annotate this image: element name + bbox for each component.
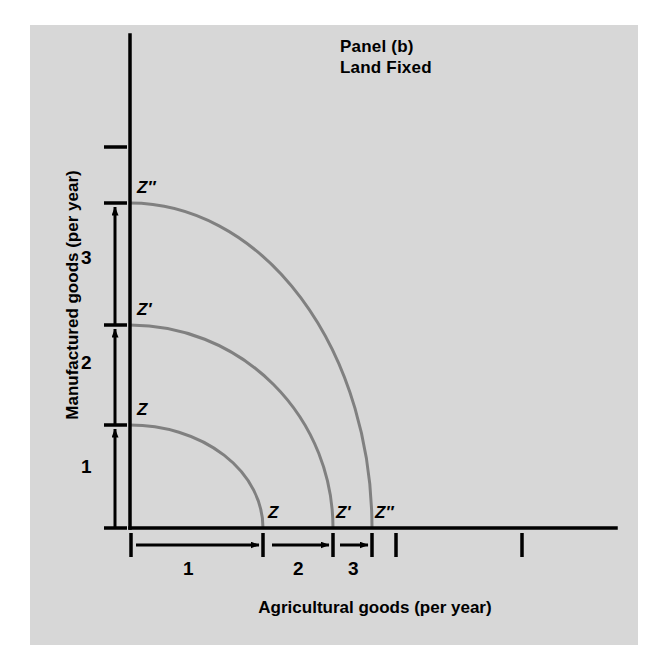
curve-z xyxy=(130,425,263,528)
curve-label-z-prime-y: Z′ xyxy=(137,300,151,320)
curve-label-z-double-prime-y: Z″ xyxy=(137,178,156,198)
curve-label-z-prime-x: Z′ xyxy=(336,503,350,523)
figure-container: Panel (b) Land Fixed xyxy=(0,0,664,667)
plot-area xyxy=(0,0,664,667)
y-axis-title: Manufactured goods (per year) xyxy=(63,95,83,495)
curve-label-z-double-prime-x: Z″ xyxy=(375,503,394,523)
curve-label-z-y: Z xyxy=(137,400,147,420)
ppf-curves xyxy=(130,203,372,528)
x-interval-label-2: 2 xyxy=(293,558,304,580)
curve-label-z-x: Z xyxy=(268,503,278,523)
x-interval-label-1: 1 xyxy=(183,558,194,580)
axis-lines xyxy=(130,35,616,528)
x-axis-title: Agricultural goods (per year) xyxy=(130,598,620,618)
x-interval-label-3: 3 xyxy=(348,558,359,580)
